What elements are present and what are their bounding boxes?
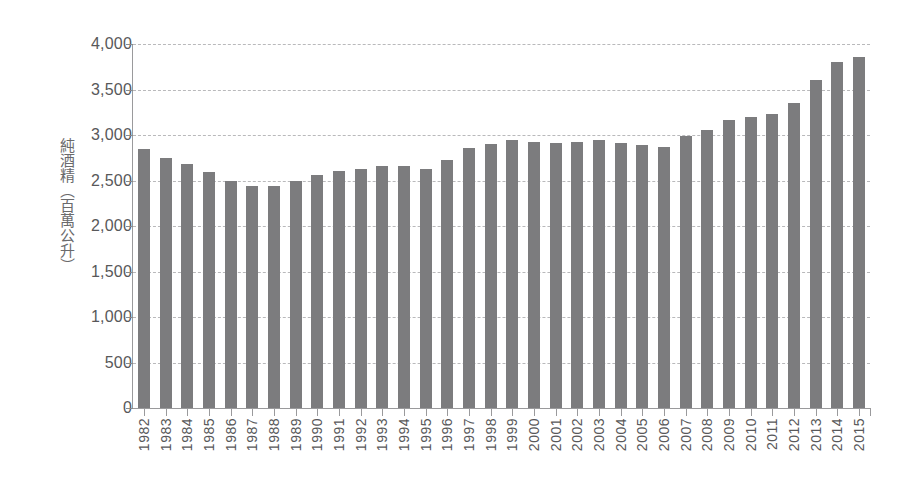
x-axis-tickmarks xyxy=(133,409,870,417)
bar xyxy=(615,143,627,408)
x-axis-tick-label: 2011 xyxy=(765,418,779,450)
y-axis-tickmark xyxy=(126,408,133,409)
bar xyxy=(485,144,497,408)
x-axis-tickmark xyxy=(794,409,795,416)
x-axis-tickmark xyxy=(209,409,210,416)
x-axis-tick-label: 1985 xyxy=(202,418,216,451)
y-axis-tickmark xyxy=(126,272,133,273)
bar xyxy=(203,172,215,408)
bar-chart: 純酒精（百萬公升） 4,0003,5003,0002,5002,0001,500… xyxy=(0,0,916,491)
x-axis-tickmark xyxy=(729,409,730,416)
bar xyxy=(333,171,345,408)
x-axis-tick-label: 2004 xyxy=(614,418,628,451)
bar xyxy=(138,149,150,408)
x-axis-tick-label: 1995 xyxy=(419,418,433,451)
bar xyxy=(680,136,692,408)
bar-series xyxy=(133,44,870,408)
x-axis-tick-label: 2012 xyxy=(787,418,801,451)
y-axis-tick-label: 3,000 xyxy=(74,127,132,143)
x-axis-tick-label: 2003 xyxy=(592,418,606,451)
y-axis-tickmark xyxy=(126,181,133,182)
x-axis-tick-label: 2010 xyxy=(744,418,758,451)
bar xyxy=(831,62,843,408)
bar xyxy=(441,160,453,408)
y-axis-tickmark xyxy=(126,135,133,136)
y-axis-tick-label: 500 xyxy=(74,355,132,371)
bar xyxy=(593,140,605,408)
x-axis-tick-label: 2008 xyxy=(700,418,714,451)
x-axis-tickmark xyxy=(870,409,871,416)
x-axis-tick-label: 1994 xyxy=(397,418,411,451)
x-axis-tick-label: 1984 xyxy=(180,418,194,451)
x-axis-tickmark xyxy=(361,409,362,416)
bar xyxy=(636,145,648,408)
x-axis-tickmark xyxy=(642,409,643,416)
x-axis-tickmark xyxy=(772,409,773,416)
x-axis-tickmark xyxy=(707,409,708,416)
bar xyxy=(398,166,410,409)
x-axis-tick-label: 1982 xyxy=(137,418,151,451)
x-axis-tickmark xyxy=(252,409,253,416)
x-axis-tick-label: 2014 xyxy=(830,418,844,451)
bar xyxy=(701,130,713,408)
bar xyxy=(463,148,475,408)
y-axis-tickmark xyxy=(126,317,133,318)
x-axis-tick-label: 2013 xyxy=(809,418,823,451)
y-axis-tick-labels: 4,0003,5003,0002,5002,0001,5001,0005000 xyxy=(20,0,132,491)
y-axis-tickmark xyxy=(126,226,133,227)
x-axis-tick-label: 1988 xyxy=(267,418,281,451)
bar xyxy=(225,181,237,408)
x-axis-tickmark xyxy=(166,409,167,416)
bar xyxy=(290,181,302,408)
x-axis-tick-label: 1998 xyxy=(484,418,498,451)
bar xyxy=(246,186,258,408)
y-axis-tick-label: 1,500 xyxy=(74,264,132,280)
x-axis-tick-label: 1996 xyxy=(440,418,454,451)
x-axis-tickmark xyxy=(512,409,513,416)
x-axis-tick-label: 2002 xyxy=(570,418,584,451)
bar xyxy=(506,140,518,408)
x-axis-tick-label: 1993 xyxy=(375,418,389,451)
x-axis-tick-label: 1990 xyxy=(310,418,324,451)
x-axis-tickmark xyxy=(816,409,817,416)
x-axis-tickmark xyxy=(577,409,578,416)
y-axis-tickmark xyxy=(126,90,133,91)
bar xyxy=(311,175,323,408)
bar xyxy=(160,158,172,408)
x-axis-tickmark xyxy=(859,409,860,416)
x-axis-tickmark xyxy=(599,409,600,416)
x-axis-tickmark xyxy=(751,409,752,416)
x-axis-tick-label: 2000 xyxy=(527,418,541,451)
x-axis-tick-label: 1991 xyxy=(332,418,346,451)
x-axis-tick-label: 1992 xyxy=(354,418,368,451)
y-axis-tick-label: 3,500 xyxy=(74,82,132,98)
x-axis-tick-label: 1999 xyxy=(505,418,519,451)
y-axis-tick-label: 4,000 xyxy=(74,36,132,52)
bar xyxy=(658,147,670,408)
bar xyxy=(181,164,193,408)
x-axis-tickmark xyxy=(469,409,470,416)
x-axis-tick-label: 2001 xyxy=(549,418,563,451)
x-axis-tick-label: 1997 xyxy=(462,418,476,451)
bar xyxy=(420,169,432,408)
x-axis-tickmark xyxy=(664,409,665,416)
bar xyxy=(745,117,757,408)
x-axis-tick-label: 1983 xyxy=(159,418,173,451)
bar xyxy=(550,143,562,408)
bar xyxy=(355,169,367,408)
x-axis-tick-label: 2005 xyxy=(635,418,649,451)
x-axis-tickmark xyxy=(491,409,492,416)
x-axis-tickmark xyxy=(382,409,383,416)
x-axis-tick-label: 2015 xyxy=(852,418,866,451)
x-axis-tickmark xyxy=(231,409,232,416)
x-axis-tickmark xyxy=(317,409,318,416)
y-axis-tick-label: 2,000 xyxy=(74,218,132,234)
x-axis-tick-label: 1986 xyxy=(224,418,238,451)
bar xyxy=(571,142,583,408)
x-axis-tickmark xyxy=(447,409,448,416)
x-axis-tickmark xyxy=(426,409,427,416)
y-axis-tick-label: 1,000 xyxy=(74,309,132,325)
x-axis-tickmark xyxy=(404,409,405,416)
bar xyxy=(810,80,822,409)
x-axis-tickmark xyxy=(621,409,622,416)
